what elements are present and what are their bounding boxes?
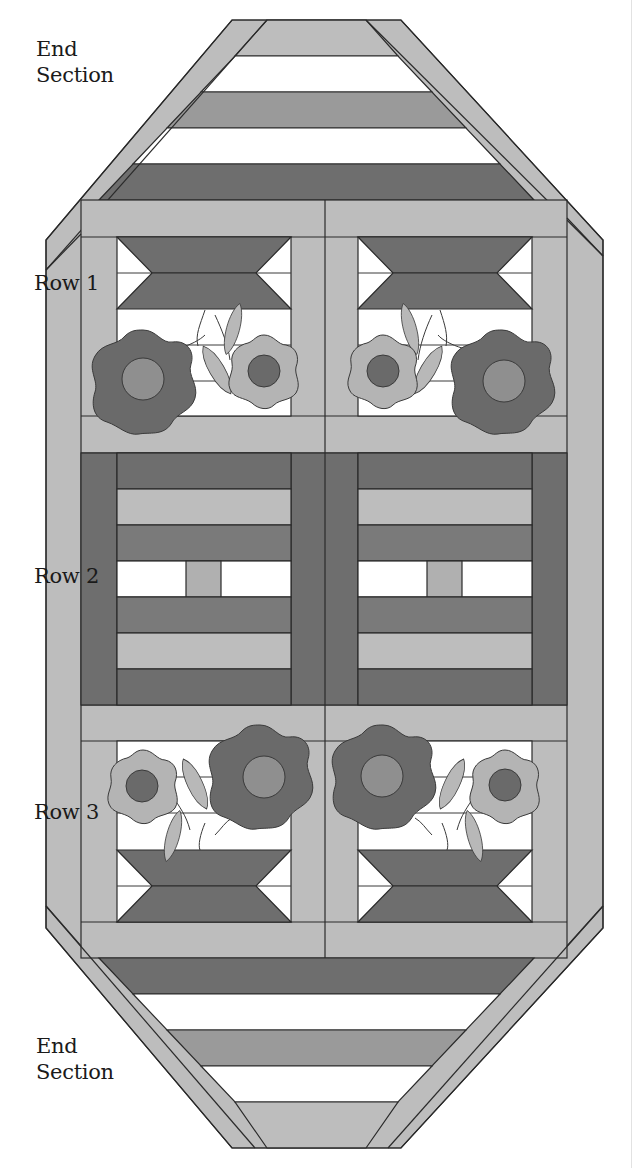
row3-block-right — [332, 725, 539, 922]
row2-block-left — [117, 453, 291, 705]
label-row-3: Row 3 — [34, 799, 99, 825]
label-top-end-section: End Section — [36, 36, 114, 88]
row2-block-right — [358, 453, 532, 705]
row-2 — [81, 453, 567, 705]
label-row-2: Row 2 — [34, 563, 99, 589]
row3-block-left — [108, 725, 313, 922]
label-row-1: Row 1 — [34, 270, 99, 296]
row1-block-right — [348, 237, 555, 434]
row1-block-left — [92, 237, 298, 434]
label-bottom-end-section: End Section — [36, 1033, 114, 1085]
